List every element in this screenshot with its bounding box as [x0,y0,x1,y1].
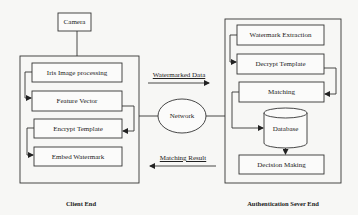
feature-vector-label: Feature Vector [57,97,98,105]
decision-making-label: Decision Making [257,161,305,169]
matching-result-label: Matching Result [160,154,206,162]
encrypt-template-label: Encrypt Template [53,125,103,133]
arrow-encrypt-to-embed [27,128,34,155]
arrow-extraction-to-decrypt [230,35,237,62]
server-end-caption: Authentication Sever End [247,200,319,207]
iris-processing-label: Iris Image processing [47,69,107,77]
camera-label: Camera [64,18,86,26]
client-end-caption: Client End [66,200,96,207]
network-label: Network [170,112,195,120]
decrypt-template-label: Decrypt Template [255,60,305,68]
arrow-feature-to-encrypt [122,106,134,131]
watermark-extraction-label: Watermark Extraction [250,31,312,39]
database-label: Database [273,125,299,133]
arrow-iris-to-feature [25,72,32,98]
watermarked-data-label: Watermarked Data [153,71,206,79]
arrow-decrypt-to-matching [324,68,336,94]
matching-label: Matching [268,88,295,96]
embed-watermark-label: Embed Watermark [52,153,104,161]
